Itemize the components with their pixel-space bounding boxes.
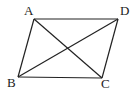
edge-ba (18, 19, 34, 77)
edge-dc (102, 19, 118, 78)
vertex-label-d: D (120, 3, 129, 18)
diagonal-bd (18, 19, 118, 77)
vertex-label-b: B (7, 75, 16, 88)
vertex-label-a: A (24, 3, 34, 18)
vertex-label-c: C (101, 76, 110, 88)
edge-cb (18, 77, 102, 78)
parallelogram-diagram: A D B C (0, 0, 137, 88)
